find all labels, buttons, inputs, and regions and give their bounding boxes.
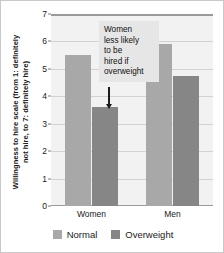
legend-item-overweight[interactable]: Overweight — [111, 229, 173, 240]
bar-women-normal — [65, 55, 91, 206]
y-axis-tick-label: 3 — [42, 119, 51, 129]
legend-item-normal[interactable]: Normal — [53, 229, 98, 240]
bar-men-overweight — [173, 76, 199, 206]
legend-swatch-normal — [53, 230, 62, 239]
annotation-callout: Women less likely to be hired if overwei… — [99, 21, 159, 82]
annotation-line-4: overweight — [104, 67, 155, 78]
y-axis-tick-label: 6 — [42, 36, 51, 46]
chart-legend: NormalOverweight — [1, 229, 224, 240]
annotation-line-0: Women — [104, 25, 155, 36]
y-axis-tick-label: 4 — [42, 91, 51, 101]
y-axis-tick-label: 5 — [42, 64, 51, 74]
annotation-arrow-icon — [108, 87, 110, 105]
plot-top-rule — [51, 14, 213, 16]
annotation-line-1: less likely — [104, 36, 155, 47]
y-axis-tick-label: 2 — [42, 146, 51, 156]
bar-women-overweight — [92, 107, 118, 206]
y-axis-title-line1: Willingness to hire scale (from 1: defin… — [11, 35, 21, 189]
legend-label-overweight: Overweight — [125, 229, 173, 240]
annotation-line-3: hired if — [104, 57, 155, 68]
legend-label-normal: Normal — [67, 229, 98, 240]
annotation-line-2: to be — [104, 46, 155, 57]
legend-swatch-overweight — [111, 230, 120, 239]
y-axis-title-line2: not hire, to 7: definitely hire) — [21, 35, 31, 189]
x-axis-label-women: Women — [77, 209, 106, 219]
y-axis-tick-label: 1 — [42, 174, 51, 184]
chart-figure: Willingness to hire scale (from 1: defin… — [0, 0, 224, 253]
y-axis-tick-label: 0 — [42, 201, 51, 211]
y-axis-tick-label: 7 — [42, 9, 51, 19]
y-axis-title: Willingness to hire scale (from 1: defin… — [1, 1, 41, 223]
x-axis-label-men: Men — [164, 209, 181, 219]
